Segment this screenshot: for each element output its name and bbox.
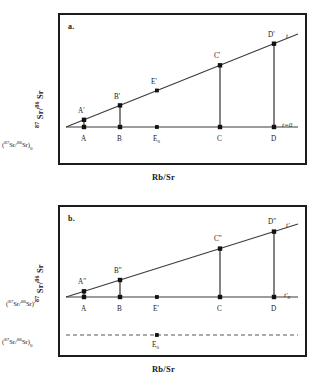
label-point-C: C — [217, 306, 222, 313]
label-point-D-prime: D' — [268, 32, 275, 39]
point-B — [118, 295, 122, 299]
panel-b-intercept-label: (87Sr/86Sr)' — [6, 299, 35, 308]
label-point-B-double-prime: B" — [114, 268, 122, 275]
label-point-C-double-prime: C" — [214, 236, 222, 243]
isochron-line-t — [66, 34, 298, 127]
label-point-B-prime: B' — [114, 94, 120, 101]
label-point-A-double-prime: A" — [78, 279, 86, 286]
label-point-A-prime: A' — [78, 108, 85, 115]
panel-b-isochron-label: t' — [286, 222, 289, 229]
point-A — [82, 295, 86, 299]
point-B-prime — [118, 103, 122, 107]
label-point-D: D — [271, 136, 276, 143]
label-point-E0: E0 — [153, 136, 160, 144]
label-point-E0-dashed: E0 — [152, 342, 159, 350]
point-A-double-prime — [82, 289, 86, 293]
isochron-line-t-prime — [66, 224, 298, 297]
panel-b-baseline-label: t'0 — [284, 292, 290, 300]
label-point-D-double-prime: D" — [268, 219, 276, 226]
label-point-A: A — [81, 136, 86, 143]
point-C-double-prime — [218, 246, 222, 250]
point-C-prime — [218, 63, 222, 67]
point-D — [272, 125, 276, 129]
label-point-A: A — [81, 306, 86, 313]
panel-a-y-axis-title: 87 Sr/86 Sr — [34, 90, 45, 128]
isochron-figure: a. — [0, 0, 327, 387]
point-E-prime — [155, 295, 159, 299]
panel-a: a. — [58, 13, 307, 165]
panel-b-x-axis-title: Rb/Sr — [0, 364, 327, 374]
panel-b-y-axis-title: 87 Sr/86 Sr — [34, 264, 45, 302]
panel-a-isochron-label: t — [286, 33, 288, 40]
point-C — [218, 125, 222, 129]
point-D-prime — [272, 42, 276, 46]
panel-b: b. — [58, 205, 307, 357]
point-C — [218, 295, 222, 299]
panel-b-plot — [60, 207, 305, 355]
point-B-double-prime — [118, 278, 122, 282]
label-point-E-prime: E' — [151, 79, 157, 86]
label-point-D: D — [271, 306, 276, 313]
point-A — [82, 125, 86, 129]
panel-a-x-axis-title: Rb/Sr — [0, 172, 327, 182]
point-E0 — [155, 125, 159, 129]
label-point-C: C — [217, 136, 222, 143]
label-point-C-prime: C' — [214, 53, 220, 60]
point-B — [118, 125, 122, 129]
label-point-E-prime: E' — [153, 306, 159, 313]
panel-a-baseline-label: t=0 — [282, 122, 292, 129]
label-point-B: B — [117, 306, 122, 313]
point-D — [272, 295, 276, 299]
panel-b-initial-ratio-label: (87Sr/86Sr)0 — [2, 337, 32, 348]
point-A-prime — [82, 118, 86, 122]
point-E0-dashed — [155, 333, 159, 337]
point-E-prime — [155, 89, 159, 93]
point-D-double-prime — [272, 229, 276, 233]
panel-a-intercept-label: (87Sr/86Sr)0 — [2, 140, 32, 151]
label-point-B: B — [117, 136, 122, 143]
